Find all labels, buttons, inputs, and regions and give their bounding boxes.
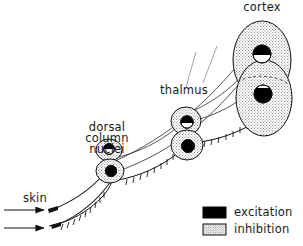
pointer-lines — [186, 46, 217, 87]
structure-cortex — [233, 21, 292, 136]
legend-swatch-excitation — [203, 207, 226, 218]
label-skin: skin — [23, 191, 47, 205]
label-thalmus: thalmus — [160, 83, 208, 97]
structure-thalmus — [171, 107, 203, 160]
skin-input-arrows — [4, 210, 44, 228]
legend-label-inhibition: inhibition — [234, 222, 290, 236]
legend-swatch-inhibition — [203, 224, 226, 235]
label-dorsal-column-nuclei-line3: nuclei — [89, 142, 125, 156]
label-cortex: cortex — [243, 0, 280, 14]
legend-label-excitation: excitation — [234, 205, 293, 219]
neural-pathway-diagram: cortex thalmus dorsal column nuclei skin… — [0, 0, 303, 246]
legend: excitation inhibition — [203, 205, 293, 236]
peripheral-nerve-tract — [49, 177, 113, 230]
figure-canvas: cortex thalmus dorsal column nuclei skin… — [0, 0, 303, 246]
